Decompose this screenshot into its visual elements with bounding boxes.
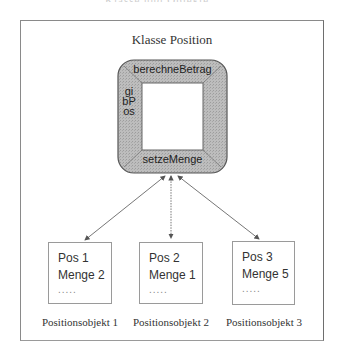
object-menge: Menge 2 [58, 267, 111, 284]
object-ellipsis: ..... [149, 284, 202, 295]
object-pos: Pos 1 [58, 250, 111, 267]
object-ellipsis: ..... [58, 284, 111, 295]
method-gib-pos: gibPos [122, 86, 136, 116]
object-pos: Pos 3 [242, 249, 294, 266]
object-caption-3: Positionsobjekt 3 [214, 316, 314, 328]
position-object-1: Pos 1 Menge 2 ..... [48, 242, 112, 304]
object-ellipsis: ..... [242, 283, 294, 294]
object-menge: Menge 5 [242, 266, 294, 283]
arrow-to-object-3 [178, 176, 259, 239]
object-caption-1: Positionsobjekt 1 [30, 316, 130, 328]
position-object-2: Pos 2 Menge 1 ..... [139, 242, 203, 304]
object-pos: Pos 2 [149, 250, 202, 267]
association-arrows [85, 176, 259, 240]
arrow-to-object-1 [85, 176, 165, 240]
method-berechne-betrag: berechneBetrag [118, 63, 227, 75]
method-setze-menge: setzeMenge [118, 153, 227, 165]
object-caption-2: Positionsobjekt 2 [121, 316, 221, 328]
position-object-3: Pos 3 Menge 5 ..... [232, 241, 295, 305]
object-menge: Menge 1 [149, 267, 202, 284]
